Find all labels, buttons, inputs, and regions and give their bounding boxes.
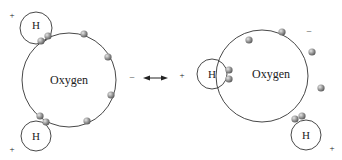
electron-icon [308,48,315,55]
electron-icon [291,115,298,122]
right-charge-bottom: + [329,143,334,153]
left-charge-top: + [9,10,14,20]
electron-icon [278,28,285,35]
resonance-arrow-icon [143,76,168,81]
water-molecule-diagram: Oxygen H H + + – Oxygen H H + + – [0,0,342,160]
electron-icon [245,36,252,43]
left-h-top-label: H [32,19,40,31]
electron-icon [225,66,232,73]
right-oxygen-label: Oxygen [252,67,290,81]
right-h-left-label: H [208,68,216,80]
electron-icon [104,53,111,60]
electron-icon [37,37,44,44]
electron-icon [44,32,51,39]
electron-icon [83,117,90,124]
right-charge-top: – [306,25,312,35]
electron-icon [317,84,324,91]
left-molecule: Oxygen H H + + – [9,10,134,154]
electron-icon [42,118,49,125]
left-oxygen-label: Oxygen [50,73,88,87]
electron-icon [80,30,87,37]
electron-icon [36,112,43,119]
left-charge-bottom: + [9,144,14,154]
right-molecule: Oxygen H H + + – [179,25,334,153]
left-h-bottom-label: H [32,130,40,142]
electron-icon [225,75,232,82]
right-charge-left: + [179,70,184,80]
electron-icon [107,91,114,98]
left-charge-right: – [129,71,135,81]
right-h-bottom-label: H [302,129,310,141]
electron-icon [298,112,305,119]
